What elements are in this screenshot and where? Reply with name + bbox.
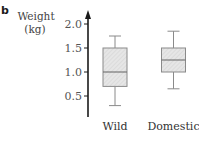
y-axis bbox=[84, 10, 91, 117]
category-label-domestic: Domestic bbox=[147, 120, 199, 133]
y-tick-label: 1.0 bbox=[65, 66, 83, 79]
box-plot-chart: b Weight (kg) 0.51.01.52.0 WildDomestic bbox=[0, 0, 199, 141]
arrow-up-icon bbox=[85, 10, 91, 19]
y-tick-label: 1.5 bbox=[65, 42, 83, 55]
y-tick-label: 0.5 bbox=[65, 90, 83, 103]
y-axis-title-line-1: Weight bbox=[17, 10, 55, 22]
panel-label: b bbox=[1, 4, 9, 17]
y-tick-labels: 0.51.01.52.0 bbox=[65, 18, 83, 103]
category-label-wild: Wild bbox=[102, 120, 127, 133]
iqr-box bbox=[103, 48, 127, 86]
y-axis-title-line-2: (kg) bbox=[24, 23, 45, 35]
y-axis-title: Weight (kg) bbox=[17, 10, 55, 35]
box-domestic bbox=[162, 31, 186, 89]
box-wild bbox=[103, 36, 127, 106]
category-labels: WildDomestic bbox=[102, 120, 199, 133]
boxes bbox=[103, 31, 186, 105]
y-tick-label: 2.0 bbox=[65, 18, 83, 31]
